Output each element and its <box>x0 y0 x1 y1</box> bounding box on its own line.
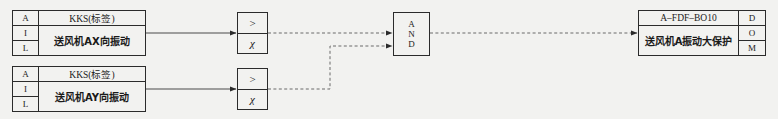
input-block-ay-kks-header: KKS(标签) <box>39 67 145 82</box>
input-block-ax-kks-header: KKS(标签) <box>39 11 145 26</box>
and-gate-letter-n: N <box>408 29 415 39</box>
comparator-x-setpoint: χ <box>238 33 267 54</box>
input-block-ax[interactable]: A I L KKS(标签) 送风机AX向振动 <box>12 10 146 56</box>
output-block-tag-o: O <box>739 25 765 40</box>
input-block-ay-tag-i: I <box>13 81 38 96</box>
input-block-ay-description: 送风机AY向振动 <box>39 82 145 111</box>
input-block-ay-tag-column: A I L <box>13 67 39 111</box>
and-gate-letter-d: D <box>408 39 415 49</box>
output-block-description: 送风机A振动大保护 <box>639 26 738 55</box>
and-gate-label: A N D <box>408 19 415 49</box>
input-block-ax-tag-column: A I L <box>13 11 39 55</box>
comparator-block-x[interactable]: > χ <box>237 12 268 54</box>
output-block-tag-column: D O M <box>739 11 765 55</box>
output-block-kks-header: A–FDF–BO10 <box>639 11 738 26</box>
input-block-ax-tag-i: I <box>13 25 38 40</box>
output-block-tag-d: D <box>739 11 765 25</box>
output-block-tag-m: M <box>739 40 765 55</box>
and-gate-letter-a: A <box>408 19 415 29</box>
comparator-block-y[interactable]: > χ <box>237 68 268 110</box>
input-block-ax-description: 送风机AX向振动 <box>39 26 145 55</box>
output-block-body: A–FDF–BO10 送风机A振动大保护 <box>639 11 739 55</box>
and-gate-block[interactable]: A N D <box>393 12 430 56</box>
wire-comparator2-to-gate <box>268 46 392 89</box>
logic-diagram-canvas: A I L KKS(标签) 送风机AX向振动 A I L KKS(标签) 送风机… <box>0 0 778 119</box>
input-block-ay-tag-l: L <box>13 96 38 111</box>
input-block-ax-body: KKS(标签) 送风机AX向振动 <box>39 11 145 55</box>
input-block-ay[interactable]: A I L KKS(标签) 送风机AY向振动 <box>12 66 146 112</box>
comparator-y-setpoint: χ <box>238 89 267 110</box>
input-block-ax-tag-a: A <box>13 11 38 25</box>
comparator-x-operator: > <box>238 13 267 33</box>
input-block-ax-tag-l: L <box>13 40 38 55</box>
comparator-y-operator: > <box>238 69 267 89</box>
output-block-protection[interactable]: A–FDF–BO10 送风机A振动大保护 D O M <box>638 10 766 56</box>
input-block-ay-body: KKS(标签) 送风机AY向振动 <box>39 67 145 111</box>
input-block-ay-tag-a: A <box>13 67 38 81</box>
